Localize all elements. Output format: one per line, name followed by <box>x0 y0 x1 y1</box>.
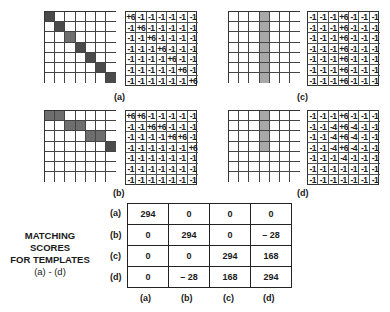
grid-cell <box>55 142 65 152</box>
grid-cell <box>65 12 75 22</box>
grid-cell <box>96 22 106 32</box>
score-cell: 294 <box>169 225 210 246</box>
matrix-cell: -1 <box>318 143 328 154</box>
matrix-cell: -1 <box>359 132 369 143</box>
matrix-cell: -1 <box>188 175 198 186</box>
matrix-cell: -1 <box>126 175 136 186</box>
matrix-cell: -1 <box>318 12 328 23</box>
grid-cell <box>249 131 259 141</box>
grid-cell <box>65 43 75 53</box>
grid-cell <box>239 131 249 141</box>
matrix-cell: -1 <box>359 54 369 65</box>
matrix-cell: -1 <box>157 143 167 154</box>
matrix-cell: -1 <box>157 111 167 122</box>
grid-cell <box>229 121 239 131</box>
score-cell: 294 <box>210 246 251 267</box>
pattern-grid-c <box>228 11 300 83</box>
grid-cell <box>55 172 65 182</box>
matrix-cell: -1 <box>370 54 380 65</box>
grid-cell <box>96 53 106 63</box>
grid-cell <box>229 22 239 32</box>
grid-cell <box>55 152 65 162</box>
grid-cell <box>65 111 75 121</box>
template-matrix-a: +6-1-1-1-1-1-1-1+6-1-1-1-1-1-1-1+6-1-1-1… <box>125 11 197 86</box>
grid-cell <box>229 131 239 141</box>
matrix-cell: -1 <box>177 111 187 122</box>
grid-cell <box>55 53 65 63</box>
grid-cell <box>270 43 280 53</box>
matrix-cell: -1 <box>318 54 328 65</box>
matrix-cell: -1 <box>329 111 339 122</box>
grid-cell <box>106 12 116 22</box>
matrix-cell: -1 <box>167 12 177 23</box>
grid-cell-active <box>86 131 96 141</box>
grid-cell <box>76 162 86 172</box>
grid-cell <box>45 172 55 182</box>
matrix-cell: -4 <box>329 132 339 143</box>
grid-cell-active <box>76 43 86 53</box>
grid-cell <box>76 131 86 141</box>
grid-cell <box>280 32 290 42</box>
matrix-cell: -4 <box>349 132 359 143</box>
grid-cell <box>86 22 96 32</box>
matrix-cell: -1 <box>359 175 369 186</box>
matrix-cell: -1 <box>359 143 369 154</box>
grid-cell <box>249 162 259 172</box>
row-label-c: (c) <box>110 251 121 261</box>
matrix-cell: -1 <box>329 153 339 164</box>
matrix-cell: -1 <box>157 164 167 175</box>
grid-cell-active <box>106 142 116 152</box>
matrix-cell: -1 <box>177 122 187 133</box>
matrix-cell: -1 <box>370 12 380 23</box>
score-cell: – 28 <box>251 225 292 246</box>
matrix-cell: -1 <box>349 44 359 55</box>
grid-cell <box>249 12 259 22</box>
matrix-cell: +6 <box>126 12 136 23</box>
grid-cell <box>280 43 290 53</box>
matrix-cell: -1 <box>318 65 328 76</box>
matrix-cell: -1 <box>349 76 359 87</box>
matrix-cell: -1 <box>126 65 136 76</box>
matrix-cell: -1 <box>188 132 198 143</box>
matrix-cell: -1 <box>136 33 146 44</box>
matrix-cell: -1 <box>147 65 157 76</box>
panel-label-b: (b) <box>113 188 125 198</box>
grid-cell <box>280 73 290 83</box>
matrix-cell: -1 <box>126 164 136 175</box>
score-cell: 0 <box>169 204 210 225</box>
matrix-cell: -1 <box>126 44 136 55</box>
matrix-cell: -1 <box>329 76 339 87</box>
grid-cell-active <box>260 53 270 63</box>
grid-cell <box>76 111 86 121</box>
grid-cell <box>229 162 239 172</box>
grid-cell <box>65 172 75 182</box>
panel-label-d: (d) <box>297 188 309 198</box>
grid-cell <box>249 43 259 53</box>
matrix-cell: -1 <box>339 175 349 186</box>
grid-cell-active <box>260 142 270 152</box>
score-cell: 0 <box>128 267 169 288</box>
matrix-cell: -1 <box>349 175 359 186</box>
score-cell: – 28 <box>169 267 210 288</box>
grid-cell <box>239 172 249 182</box>
matrix-cell: -1 <box>136 65 146 76</box>
matrix-cell: -1 <box>308 76 318 87</box>
grid-cell <box>55 131 65 141</box>
matrix-cell: -1 <box>136 175 146 186</box>
grid-cell <box>280 111 290 121</box>
grid-cell <box>270 172 280 182</box>
grid-cell <box>86 63 96 73</box>
grid-cell <box>76 12 86 22</box>
grid-cell <box>96 73 106 83</box>
matrix-cell: -1 <box>349 65 359 76</box>
matrix-cell: -1 <box>308 12 318 23</box>
grid-cell <box>65 131 75 141</box>
matrix-cell: -1 <box>349 54 359 65</box>
grid-cell <box>65 142 75 152</box>
score-cell: 168 <box>210 267 251 288</box>
matrix-cell: -1 <box>308 23 318 34</box>
matrix-cell: -1 <box>136 122 146 133</box>
grid-cell <box>86 111 96 121</box>
col-label-b: (b) <box>181 293 193 303</box>
grid-cell <box>290 73 300 83</box>
